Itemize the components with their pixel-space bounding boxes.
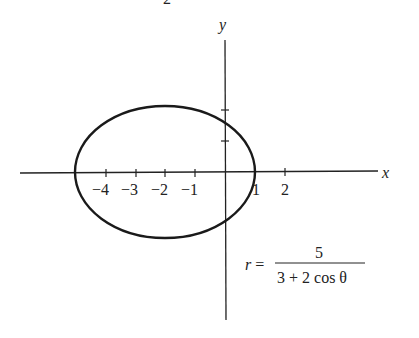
y-axis-label: y	[217, 16, 227, 34]
x-axis-label: x	[381, 164, 389, 181]
x-axis	[20, 171, 378, 173]
equation-numerator: 5	[315, 244, 323, 261]
x-tick-label: −3	[121, 181, 138, 198]
y-axis	[225, 40, 226, 320]
x-tick-label: −1	[181, 181, 198, 198]
x-tick-label: −2	[151, 181, 168, 198]
x-tick-label: 2	[281, 181, 289, 198]
equation-lhs: r =	[245, 256, 264, 273]
top-fragment: 2	[163, 0, 171, 7]
x-tick-label: −4	[92, 181, 109, 198]
equation: r = 5 3 + 2 cos θ	[245, 244, 365, 286]
equation-denominator: 3 + 2 cos θ	[277, 269, 347, 286]
polar-graph: 2 x y −4 −3 −2 −1 1 2 r = 5 3 + 2 cos θ	[0, 0, 419, 338]
